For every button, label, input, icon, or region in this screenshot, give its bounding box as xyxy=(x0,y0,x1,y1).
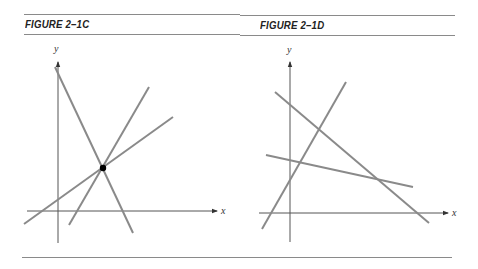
y-axis-label: y xyxy=(53,43,59,54)
figure-2-1c: y x xyxy=(24,43,226,243)
line-steep-descending xyxy=(55,67,133,233)
line-shallow-ascending xyxy=(24,117,173,224)
x-axis-label: x xyxy=(451,207,457,218)
line-descending xyxy=(275,92,429,223)
figures-canvas: y x y x xyxy=(0,0,478,269)
intersection-dot xyxy=(100,165,106,171)
line-steep-ascending xyxy=(69,87,149,225)
x-axis-label: x xyxy=(220,205,226,216)
figure-2-1d: y x xyxy=(259,44,457,242)
line-ascending xyxy=(262,82,346,229)
y-axis-label: y xyxy=(286,44,292,55)
